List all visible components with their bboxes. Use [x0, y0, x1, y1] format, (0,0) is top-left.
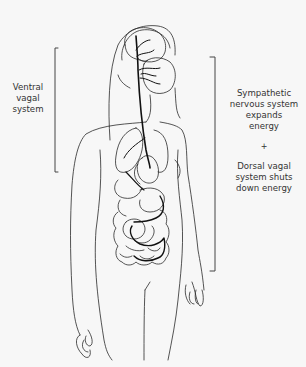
brain — [125, 28, 176, 94]
sympathetic-line: energy — [224, 121, 304, 132]
dorsal-vagal-line: Dorsal vagal — [224, 161, 304, 172]
ventral-vagal-label: Ventral vagal system — [4, 82, 52, 115]
right-bracket — [210, 57, 215, 271]
heart — [134, 156, 158, 184]
vagus-nerve-diagram: Ventral vagal system Sympathetic nervous… — [0, 0, 306, 367]
plus-separator: + — [224, 141, 304, 152]
dorsal-vagal-line: down energy — [224, 183, 304, 194]
dorsal-vagal-line: system shuts — [224, 172, 304, 183]
sympathetic-line: Sympathetic — [224, 88, 304, 99]
ventral-vagal-line: vagal — [4, 93, 52, 104]
ventral-vagal-line: Ventral — [4, 82, 52, 93]
lungs — [115, 128, 168, 172]
sympathetic-line: expands — [224, 110, 304, 121]
vagus-nerve — [124, 36, 165, 261]
sympathetic-line: nervous system — [224, 99, 304, 110]
left-hand — [76, 330, 92, 357]
right-hand — [185, 282, 203, 306]
abdomen-organs — [115, 180, 165, 216]
left-bracket — [55, 48, 58, 172]
torso-outline — [71, 122, 205, 360]
sympathetic-dorsal-label: Sympathetic nervous system expands energ… — [224, 88, 304, 194]
ventral-vagal-line: system — [4, 104, 52, 115]
